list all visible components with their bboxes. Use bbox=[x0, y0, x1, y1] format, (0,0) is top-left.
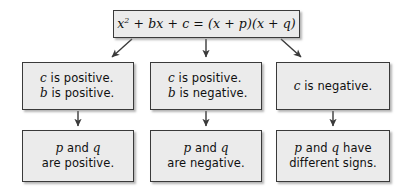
variable-b: b bbox=[168, 86, 176, 100]
conclusion-left-line-1: p and q bbox=[55, 141, 100, 156]
conclusion-left-line-2: are positive. bbox=[42, 156, 114, 171]
conclusion-right-line-1: p and q have bbox=[294, 141, 371, 156]
conclusion-box-right: p and q have different signs. bbox=[276, 130, 390, 182]
conclusion-right-line-2: different signs. bbox=[289, 156, 377, 171]
variable-b: b bbox=[40, 86, 48, 100]
variable-q: q bbox=[221, 141, 229, 155]
equation-remainder: + bx + c = (x + p)(x + q) bbox=[129, 16, 295, 31]
condition-middle-line-1-text: is positive. bbox=[175, 71, 242, 85]
quadratic-sign-rules-flowchart: x2 + bx + c = (x + p)(x + q) c is positi… bbox=[0, 0, 404, 194]
variable-p: p bbox=[294, 141, 302, 155]
condition-box-right: c is negative. bbox=[276, 62, 390, 110]
conclusion-box-left: p and q are positive. bbox=[22, 130, 134, 182]
conclusion-middle-conjunction: and bbox=[191, 141, 220, 155]
variable-c: c bbox=[168, 71, 175, 85]
connector-equation-to-right bbox=[281, 39, 301, 57]
equation-box: x2 + bx + c = (x + p)(x + q) bbox=[113, 10, 300, 38]
condition-left-line-2-text: is positive. bbox=[48, 86, 115, 100]
conclusion-right-line-1-tail: have bbox=[339, 141, 371, 155]
condition-middle-line-2-text: is negative. bbox=[176, 86, 248, 100]
equation-text: x2 + bx + c = (x + p)(x + q) bbox=[117, 16, 296, 32]
condition-left-line-2: b is positive. bbox=[40, 86, 114, 101]
condition-right-line-1: c is negative. bbox=[294, 79, 373, 94]
condition-middle-line-1: c is positive. bbox=[168, 71, 241, 86]
condition-right-line-1-text: is negative. bbox=[301, 79, 373, 93]
condition-box-left: c is positive. b is positive. bbox=[22, 62, 134, 110]
condition-left-line-1: c is positive. bbox=[40, 71, 113, 86]
connector-equation-to-left bbox=[112, 39, 132, 57]
variable-c: c bbox=[294, 79, 301, 93]
variable-q: q bbox=[93, 141, 101, 155]
condition-box-middle: c is positive. b is negative. bbox=[150, 62, 262, 110]
condition-left-line-1-text: is positive. bbox=[47, 71, 114, 85]
variable-c: c bbox=[40, 71, 47, 85]
conclusion-box-middle: p and q are negative. bbox=[150, 130, 262, 182]
conclusion-right-conjunction: and bbox=[302, 141, 331, 155]
condition-middle-line-2: b is negative. bbox=[168, 86, 248, 101]
conclusion-middle-line-2: are negative. bbox=[167, 156, 245, 171]
conclusion-left-conjunction: and bbox=[63, 141, 92, 155]
conclusion-middle-line-1: p and q bbox=[183, 141, 228, 156]
